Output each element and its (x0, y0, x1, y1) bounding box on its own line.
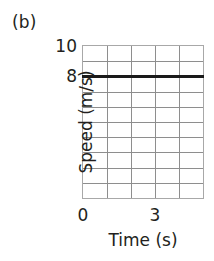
gridline-horizontal (83, 183, 203, 184)
y-axis-title: Speed (m/s) (78, 70, 95, 173)
gridline-horizontal (83, 107, 203, 108)
y-tick-label-8: 8 (66, 68, 77, 85)
y-tick-label-10: 10 (55, 38, 77, 55)
gridline-horizontal (83, 152, 203, 153)
gridline-horizontal (83, 122, 203, 123)
x-tick-label-0: 0 (78, 207, 89, 224)
gridline-horizontal (83, 61, 203, 62)
gridline-horizontal (83, 92, 203, 93)
panel-label: (b) (12, 14, 37, 31)
figure-panel-b: (b) Speed (m/s) 10 8 0 3 Time (s) (0, 0, 214, 261)
gridline-vertical (131, 46, 132, 198)
plot-area: Speed (m/s) 10 8 0 3 Time (s) (82, 45, 204, 199)
gridline-vertical (107, 46, 108, 198)
x-axis-title: Time (s) (108, 232, 177, 249)
grid-lines (83, 46, 203, 198)
gridline-horizontal (83, 137, 203, 138)
gridline-horizontal (83, 168, 203, 169)
speed-data-line (82, 75, 204, 78)
x-tick-label-3: 3 (150, 207, 161, 224)
gridline-vertical (179, 46, 180, 198)
gridline-vertical (155, 46, 156, 198)
